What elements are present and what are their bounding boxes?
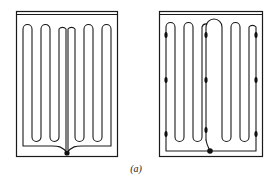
left-panel (17, 12, 118, 157)
right-serpentine-left-section (166, 23, 210, 152)
tap-node (204, 127, 207, 133)
tap-node (204, 77, 207, 83)
tap-node (164, 77, 167, 83)
tap-node (254, 32, 257, 38)
right-panel (160, 12, 263, 157)
tap-node (254, 131, 257, 137)
diagram-canvas (0, 0, 271, 187)
right-serpentine-middle-arch (206, 19, 256, 151)
left-junction-node (64, 150, 69, 155)
tap-node (164, 131, 167, 137)
tap-node (164, 32, 167, 38)
left-serpentine-right-half (67, 25, 111, 154)
tap-node (254, 77, 257, 83)
left-serpentine-left-half (23, 25, 67, 154)
right-junction-node (207, 148, 213, 154)
figure-caption: (a) (124, 163, 148, 174)
tap-node (204, 32, 207, 38)
